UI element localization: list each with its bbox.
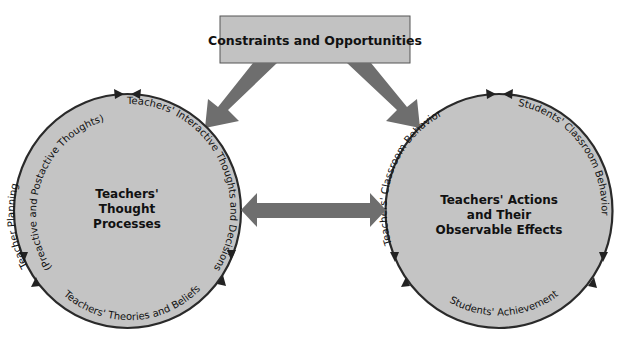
arrow-to-actions-effects <box>347 63 420 128</box>
actions-effects-title-line-2: and Their <box>467 208 531 222</box>
thought-processes-title-line-2: Thought <box>99 202 156 216</box>
actions-effects-title-line-1: Teachers' Actions <box>440 193 558 207</box>
actions-effects-title-line-3: Observable Effects <box>436 223 563 237</box>
diagram-canvas: Constraints and Opportunities Teacher Pl… <box>0 0 625 346</box>
arrow-to-thought-processes <box>205 63 277 128</box>
thought-processes-title-line-1: Teachers' <box>95 187 158 201</box>
bidirectional-arrow <box>241 193 386 227</box>
thought-processes-title-line-3: Processes <box>93 217 161 231</box>
constraints-box-label: Constraints and Opportunities <box>208 33 422 48</box>
thought-processes-circle: Teacher Planning (Preactive and Postacti… <box>5 89 241 328</box>
constraints-box: Constraints and Opportunities <box>208 16 422 63</box>
